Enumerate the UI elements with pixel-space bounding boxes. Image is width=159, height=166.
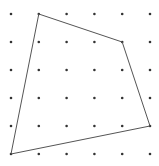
grid-dot xyxy=(38,69,41,72)
grid-dot xyxy=(93,97,96,100)
grid-dot xyxy=(38,41,41,44)
grid-dot xyxy=(149,97,152,100)
grid-dot xyxy=(149,69,152,72)
grid-dot xyxy=(121,97,124,100)
grid-dot xyxy=(93,69,96,72)
grid-dot xyxy=(38,97,41,100)
grid-dot xyxy=(121,69,124,72)
grid-dot xyxy=(121,153,124,156)
grid-dot xyxy=(93,153,96,156)
grid-dot xyxy=(65,69,68,72)
grid-dot xyxy=(65,13,68,16)
grid-dot xyxy=(149,13,152,16)
grid-dot xyxy=(10,69,13,72)
grid-dot xyxy=(38,153,41,156)
grid-dot xyxy=(65,41,68,44)
grid-dot xyxy=(65,153,68,156)
grid-dot xyxy=(93,41,96,44)
grid-dot xyxy=(93,13,96,16)
grid-dot xyxy=(38,125,41,128)
quadrilateral xyxy=(11,14,150,154)
grid-dot xyxy=(10,41,13,44)
grid-dot xyxy=(10,97,13,100)
grid-dot xyxy=(93,125,96,128)
grid-dot xyxy=(65,97,68,100)
grid-dot xyxy=(10,13,13,16)
dot-grid-diagram xyxy=(0,0,159,166)
grid-dot xyxy=(121,13,124,16)
grid-dot xyxy=(149,153,152,156)
grid-dot xyxy=(10,125,13,128)
grid-dot xyxy=(149,41,152,44)
grid-dot xyxy=(121,125,124,128)
grid-dots xyxy=(10,13,152,156)
grid-dot xyxy=(65,125,68,128)
